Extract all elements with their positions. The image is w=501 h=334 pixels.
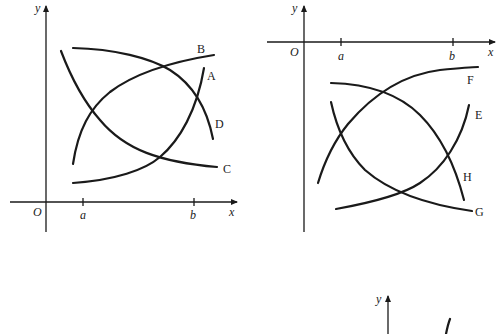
curve-label-A: A — [207, 69, 216, 83]
curve-label-E: E — [475, 108, 482, 122]
y-axis-label: y — [291, 1, 298, 15]
tick-label-b: b — [449, 49, 455, 63]
origin-label: O — [33, 205, 42, 219]
tick-label-b: b — [190, 208, 196, 222]
y-axis-label: y — [375, 292, 382, 306]
origin-label: O — [290, 45, 299, 59]
curve-A — [73, 68, 204, 183]
tick-label-a: a — [338, 49, 344, 63]
function-graphs-figure: y x O a b B A D C y x O a b F — [0, 0, 501, 334]
curve-label-H: H — [463, 170, 472, 184]
y-axis-label: y — [34, 1, 41, 15]
curve-partial — [446, 319, 450, 334]
bottom-partial-graph: y — [375, 292, 450, 334]
curve-D — [73, 48, 213, 139]
curve-label-G: G — [475, 205, 484, 219]
curve-label-B: B — [197, 42, 205, 56]
x-axis-label: x — [228, 205, 235, 219]
curve-label-F: F — [467, 73, 474, 87]
curve-label-C: C — [223, 162, 231, 176]
tick-label-a: a — [80, 208, 86, 222]
x-axis-label: x — [487, 45, 494, 59]
right-graph: y x O a b F E H G — [267, 1, 495, 232]
left-graph: y x O a b B A D C — [10, 1, 237, 232]
curve-H — [331, 83, 464, 200]
curve-label-D: D — [215, 117, 224, 131]
